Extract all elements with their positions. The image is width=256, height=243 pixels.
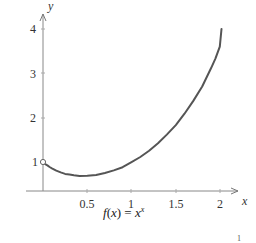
x-axis-label: x <box>241 194 248 208</box>
chart-canvas: 4 3 2 1 0.5 1 1.5 2 y x f(x) = xx 1 <box>0 0 256 243</box>
x-tick-label-0.5: 0.5 <box>80 197 95 211</box>
page-mark: 1 <box>237 234 241 243</box>
function-curve <box>43 29 222 176</box>
y-tick-label-2: 2 <box>30 111 36 125</box>
function-caption: f(x) = xx <box>103 205 145 220</box>
y-tick-label-1: 1 <box>32 155 38 169</box>
y-tick-label-4: 4 <box>30 22 36 36</box>
x-tick-label-2: 2 <box>217 197 223 211</box>
x-tick-label-1.5: 1.5 <box>169 197 184 211</box>
y-axis-label: y <box>47 0 54 13</box>
open-point-marker <box>40 159 45 164</box>
y-tick-label-3: 3 <box>30 67 36 81</box>
